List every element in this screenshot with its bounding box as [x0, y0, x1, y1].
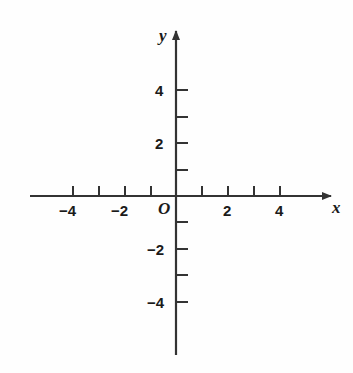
x-tick-label--2: −2: [111, 203, 128, 218]
x-tick-label-2: 2: [223, 203, 231, 218]
origin-label: O: [158, 200, 170, 217]
coordinate-plane-figure: −4 −2 2 4 4 2 −2 −4 O y x: [0, 0, 353, 373]
x-tick-label--4: −4: [59, 203, 76, 218]
y-tick-label-4: 4: [155, 83, 163, 98]
x-tick-label-4: 4: [275, 203, 283, 218]
x-axis-label: x: [332, 199, 341, 216]
y-tick-label-2: 2: [155, 136, 163, 151]
axes-svg: [0, 0, 353, 373]
y-tick-label--2: −2: [147, 242, 164, 257]
y-axis-label: y: [159, 27, 167, 44]
y-tick-label--4: −4: [147, 295, 164, 310]
